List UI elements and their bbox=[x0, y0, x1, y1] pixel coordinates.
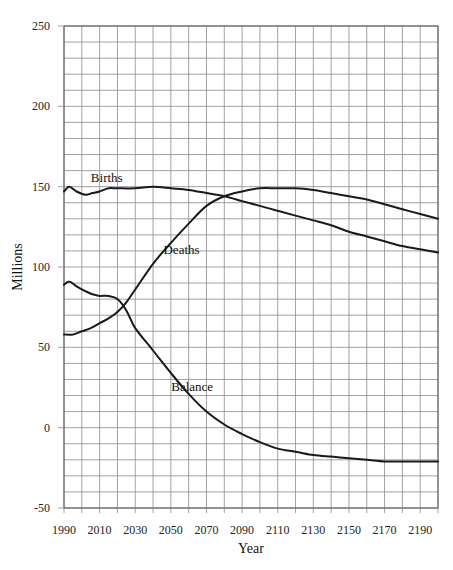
y-axis-ticks: 250200150100500-50 bbox=[32, 19, 64, 515]
x-tick-label: 2030 bbox=[123, 523, 147, 537]
series-line-deaths bbox=[64, 188, 438, 335]
x-axis-ticks: 1990201020302050207020902110213021502170… bbox=[52, 508, 438, 537]
x-axis-title: Year bbox=[238, 541, 264, 556]
series-lines bbox=[64, 187, 438, 462]
series-line-births bbox=[64, 187, 438, 253]
x-tick-label: 2090 bbox=[230, 523, 254, 537]
x-tick-label: 2010 bbox=[88, 523, 112, 537]
x-tick-label: 2070 bbox=[194, 523, 218, 537]
series-label-balance: Balance bbox=[171, 379, 213, 394]
y-tick-label: 0 bbox=[44, 421, 50, 435]
x-tick-label: 2150 bbox=[337, 523, 361, 537]
y-tick-label: -50 bbox=[34, 501, 50, 515]
line-chart: 250200150100500-50 199020102030205020702… bbox=[0, 0, 453, 570]
y-tick-label: 150 bbox=[32, 180, 50, 194]
series-labels: BirthsDeathsBalance bbox=[91, 170, 214, 394]
grid-lines bbox=[64, 26, 438, 508]
x-tick-label: 2190 bbox=[408, 523, 432, 537]
x-tick-label: 1990 bbox=[52, 523, 76, 537]
y-tick-label: 250 bbox=[32, 19, 50, 33]
y-axis-title: Millions bbox=[10, 243, 25, 290]
x-tick-label: 2130 bbox=[301, 523, 325, 537]
x-tick-label: 2110 bbox=[266, 523, 290, 537]
x-tick-label: 2050 bbox=[159, 523, 183, 537]
y-tick-label: 100 bbox=[32, 260, 50, 274]
series-label-deaths: Deaths bbox=[163, 242, 199, 257]
x-tick-label: 2170 bbox=[373, 523, 397, 537]
y-tick-label: 50 bbox=[38, 340, 50, 354]
y-tick-label: 200 bbox=[32, 99, 50, 113]
series-label-births: Births bbox=[91, 170, 123, 185]
